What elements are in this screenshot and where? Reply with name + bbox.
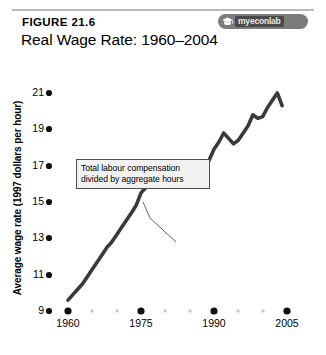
badge-label: myeconlab (238, 16, 281, 27)
annotation-callout: Total labour compensation divided by agg… (76, 159, 210, 189)
figure-title: Real Wage Rate: 1960–2004 (21, 31, 218, 49)
annotation-leader-line (143, 202, 176, 242)
chart-plot-area: Average wage rate (1997 dollars per hour… (0, 58, 326, 355)
x-axis-minor-tick-dots (90, 309, 264, 312)
y-axis-tick-dots (46, 90, 52, 314)
chart-canvas (0, 58, 326, 355)
header-divider (12, 9, 314, 11)
myeconlab-badge[interactable]: myeconlab (218, 14, 308, 29)
annotation-line-2: divided by aggregate hours (81, 174, 205, 185)
data-line-real-wage-rate (68, 93, 282, 300)
figure-header: FIGURE 21.6 Real Wage Rate: 1960–2004 my… (0, 0, 326, 58)
figure-number-label: FIGURE 21.6 (22, 16, 95, 28)
mortarboard-icon (220, 16, 234, 28)
annotation-line-1: Total labour compensation (81, 163, 205, 174)
badge-wordmark-plate: myeconlab (235, 16, 284, 27)
x-axis-tick-dots (64, 307, 290, 314)
